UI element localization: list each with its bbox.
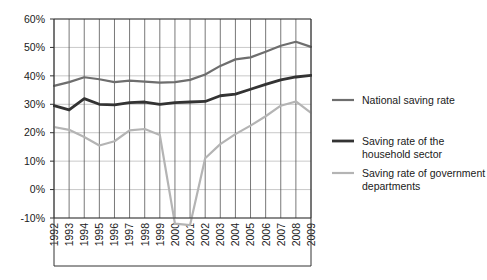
x-axis-tick-label: 2001 [184, 223, 196, 247]
y-axis-tick-label: 40% [24, 70, 45, 82]
series-line-0 [54, 42, 311, 86]
chart-legend: National saving rateSaving rate of theho… [332, 94, 485, 192]
x-axis-tick-label: 2003 [214, 223, 226, 247]
y-axis-tick-label: 10% [24, 155, 45, 167]
y-axis-tick-label: 30% [24, 98, 45, 110]
y-axis-tick-labels: 60%50%40%30%20%10%0%-10% [20, 13, 45, 224]
y-axis-tick-label: 60% [24, 13, 45, 25]
x-axis-tick-label: 1993 [63, 223, 75, 247]
line-chart: 60%50%40%30%20%10%0%-10% 199219931994199… [0, 0, 487, 280]
x-axis-tick-label: 1997 [123, 223, 135, 247]
x-axis-tick-label: 2002 [199, 223, 211, 247]
x-axis-tick-label: 2006 [260, 223, 272, 247]
x-axis-tick-label: 2000 [169, 223, 181, 247]
series-line-2 [54, 101, 311, 225]
legend-label-1: Saving rate of the [362, 135, 444, 147]
x-axis-tick-label: 2008 [290, 223, 302, 247]
legend-label-0: National saving rate [362, 94, 455, 106]
chart-container: 60%50%40%30%20%10%0%-10% 199219931994199… [0, 0, 487, 280]
x-axis-tick-label: 1996 [108, 223, 120, 247]
x-axis-tick-label: 2007 [275, 223, 287, 247]
x-axis-tick-label: 2004 [229, 223, 241, 247]
legend-label-2: Saving rate of government [362, 167, 485, 179]
x-axis-tick-label: 1998 [139, 223, 151, 247]
y-axis-tick-label: 50% [24, 41, 45, 53]
y-axis-tick-label: -10% [20, 212, 45, 224]
y-axis-tick-marks [50, 19, 54, 218]
y-axis-tick-label: 0% [30, 183, 45, 195]
x-axis-tick-label: 1999 [154, 223, 166, 247]
x-axis-tick-labels: 1992199319941995199619971998199920002001… [48, 223, 317, 247]
x-axis-tick-label: 2005 [244, 223, 256, 247]
y-axis-tick-label: 20% [24, 126, 45, 138]
legend-label-1: household sector [362, 148, 442, 160]
legend-label-2: departments [362, 180, 420, 192]
x-axis-tick-label: 1995 [93, 223, 105, 247]
data-series-lines [54, 42, 311, 225]
x-axis-tick-label: 1994 [78, 223, 90, 247]
